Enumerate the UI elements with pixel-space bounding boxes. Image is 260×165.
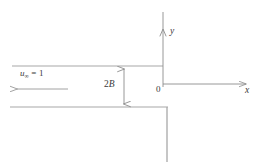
- channel-width-symbol-b: B: [109, 79, 115, 89]
- channel-width-label: 2B: [104, 80, 115, 90]
- inflow-velocity-label: u∞ = 1: [20, 69, 44, 79]
- velocity-value: = 1: [29, 68, 44, 78]
- diagram-canvas: [0, 0, 260, 165]
- x-axis-label: x: [245, 86, 249, 96]
- origin-label: 0: [156, 85, 161, 94]
- y-axis-label: y: [170, 27, 174, 37]
- flow-diagram-figure: u∞ = 1 2B y x 0: [0, 0, 260, 165]
